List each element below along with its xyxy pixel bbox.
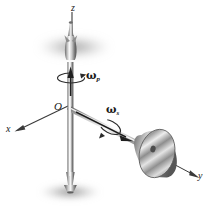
axis-label-x: x [6,124,10,134]
spin-angular-velocity-label: ωs [106,104,119,117]
omega-glyph-spin: ω [106,103,116,116]
axis-label-y: y [198,171,202,181]
origin-label: O [54,101,62,112]
omega-subscript-spin: s [116,109,119,117]
axis-label-z: z [71,3,75,13]
spin-vector-arrow [76,112,134,141]
omega-subscript-precession: p [96,75,100,83]
omega-glyph-precession: ω [86,69,96,82]
flywheel-disk [134,125,180,181]
precession-angular-velocity-label: ωp [86,70,100,83]
gyroscope-figure: z x y O ωp ωs [0,0,211,206]
